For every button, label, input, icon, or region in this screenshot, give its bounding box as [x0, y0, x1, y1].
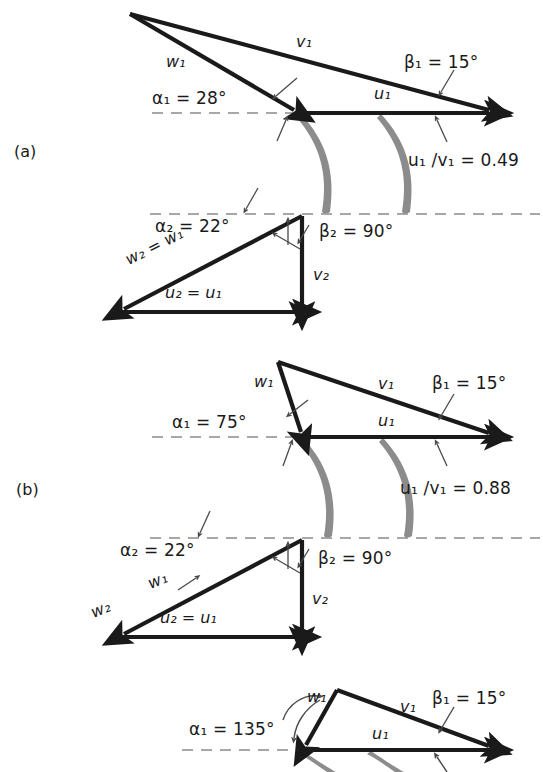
label-ratio-panel-b: u₁ /v₁ = 0.88	[400, 478, 511, 498]
label-w1-panel-b: w₁	[254, 372, 274, 391]
figure-canvas: (a) w₁ v₁ u₁ α₁ = 28° β₁ = 15° u₁ /v₁ = …	[0, 0, 543, 772]
label-beta1-panel-b: β₁ = 15°	[432, 373, 506, 393]
label-beta2-panel-a: β₂ = 90°	[319, 221, 393, 241]
label-alpha1-panel-a: α₁ = 28°	[152, 88, 227, 108]
panel-a-label: (a)	[14, 142, 36, 161]
panel-b-inlet-angle-marks	[283, 394, 454, 466]
label-beta2-panel-b: β₂ = 90°	[318, 548, 392, 568]
label-v1-panel-b: v₁	[378, 374, 394, 393]
label-ratio-panel-a: u₁ /v₁ = 0.49	[408, 150, 519, 170]
label-u2-panel-b: u₂ = u₁	[160, 608, 217, 627]
panel-c-inlet-angle-marks	[283, 696, 454, 772]
label-u2-panel-a: u₂ = u₁	[165, 283, 222, 302]
panel-a-inlet-angle-marks	[276, 70, 454, 142]
label-alpha2-panel-b: α₂ = 22°	[120, 540, 195, 560]
label-w1-panel-a: w₁	[166, 52, 186, 71]
panel-c-blades	[299, 751, 404, 772]
label-v2-panel-b: v₂	[312, 589, 328, 608]
panel-b-outlet-angle-marks	[178, 511, 309, 590]
label-v1-panel-c: v₁	[400, 697, 416, 716]
label-w1-panel-c: w₁	[307, 687, 327, 706]
panel-b-blades	[299, 438, 414, 538]
panel-a-blades	[297, 114, 412, 214]
label-u1-panel-a: u₁	[374, 84, 391, 103]
vector-w1-b	[278, 362, 301, 432]
label-alpha1-panel-c: α₁ = 135°	[189, 719, 275, 739]
label-beta1-panel-c: β₁ = 15°	[432, 688, 506, 708]
label-alpha1-panel-b: α₁ = 75°	[172, 412, 247, 432]
label-v2-panel-a: v₂	[313, 265, 329, 284]
label-u1-panel-b: u₁	[378, 411, 395, 430]
label-beta1-panel-a: β₁ = 15°	[404, 52, 478, 72]
panel-b-label: (b)	[16, 480, 39, 499]
label-v1-panel-a: v₁	[296, 32, 312, 51]
label-u1-panel-c: u₁	[372, 724, 389, 743]
